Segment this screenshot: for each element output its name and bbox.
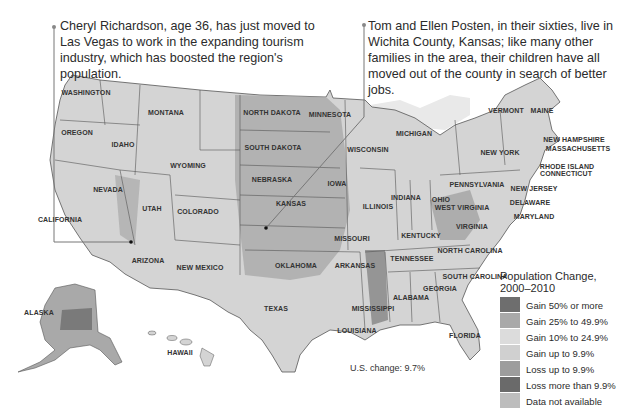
state-label-new-hampshire: NEW HAMPSHIRE xyxy=(543,136,605,144)
state-label-maine: MAINE xyxy=(530,107,553,115)
legend-item: Loss up to 9.9% xyxy=(500,361,616,377)
legend-subtitle: 2000–2010 xyxy=(500,282,616,294)
state-label-florida: FLORIDA xyxy=(449,332,481,340)
state-label-kentucky: KENTUCKY xyxy=(401,232,441,240)
state-label-maryland: MARYLAND xyxy=(514,213,555,221)
state-label-wisconsin: WISCONSIN xyxy=(347,146,388,154)
state-label-illinois: ILLINOIS xyxy=(363,203,393,211)
state-label-new-mexico: NEW MEXICO xyxy=(177,264,224,272)
state-label-georgia: GEORGIA xyxy=(423,285,457,293)
legend-label: Gain up to 9.9% xyxy=(526,348,594,359)
state-label-south-dakota: SOUTH DAKOTA xyxy=(244,144,301,152)
state-label-massachusetts: MASSACHUSETTS xyxy=(546,145,610,153)
legend-swatch xyxy=(500,297,520,313)
state-label-west-virginia: WEST VIRGINIA xyxy=(435,204,490,212)
legend: Population Change, 2000–2010 Gain 50% or… xyxy=(500,270,616,409)
legend-label: Gain 50% or more xyxy=(526,300,603,311)
legend-label: Data not available xyxy=(526,396,602,407)
state-label-north-carolina: NORTH CAROLINA xyxy=(437,247,502,255)
legend-item: Gain 25% to 49.9% xyxy=(500,313,616,329)
state-label-ohio: OHIO xyxy=(432,196,450,204)
legend-swatch xyxy=(500,361,520,377)
state-label-tennessee: TENNESSEE xyxy=(390,255,433,263)
state-label-oregon: OREGON xyxy=(61,129,93,137)
legend-item: Data not available xyxy=(500,393,616,409)
legend-label: Gain 10% to 24.9% xyxy=(526,332,608,343)
state-label-kansas: KANSAS xyxy=(276,200,306,208)
state-label-minnesota: MINNESOTA xyxy=(309,111,351,119)
state-label-utah: UTAH xyxy=(142,205,161,213)
state-label-mississippi: MISSISSIPPI xyxy=(352,305,395,313)
state-label-iowa: IOWA xyxy=(327,180,346,188)
state-label-new-jersey: NEW JERSEY xyxy=(511,185,558,193)
state-label-colorado: COLORADO xyxy=(177,208,219,216)
state-label-alaska: ALASKA xyxy=(24,309,54,317)
callout-las-vegas: Cheryl Richardson, age 36, has just move… xyxy=(60,18,330,82)
state-label-oklahoma: OKLAHOMA xyxy=(275,262,317,270)
state-label-north-dakota: NORTH DAKOTA xyxy=(243,109,300,117)
legend-item: Gain up to 9.9% xyxy=(500,345,616,361)
state-label-louisiana: LOUISIANA xyxy=(337,327,376,335)
legend-label: Loss more than 9.9% xyxy=(526,380,616,391)
legend-item: Gain 10% to 24.9% xyxy=(500,329,616,345)
state-label-new-york: NEW YORK xyxy=(480,149,519,157)
legend-swatch xyxy=(500,345,520,361)
state-label-alabama: ALABAMA xyxy=(393,294,429,302)
state-label-michigan: MICHIGAN xyxy=(396,130,432,138)
legend-swatch xyxy=(500,329,520,345)
state-label-indiana: INDIANA xyxy=(391,194,421,202)
state-label-texas: TEXAS xyxy=(264,305,288,313)
state-label-missouri: MISSOURI xyxy=(334,235,369,243)
state-label-delaware: DELAWARE xyxy=(510,199,550,207)
state-label-idaho: IDAHO xyxy=(111,141,134,149)
legend-label: Gain 25% to 49.9% xyxy=(526,316,608,327)
state-label-arkansas: ARKANSAS xyxy=(335,262,375,270)
state-label-nebraska: NEBRASKA xyxy=(252,176,292,184)
state-label-nevada: NEVADA xyxy=(93,186,123,194)
us-change-note: U.S. change: 9.7% xyxy=(350,363,425,373)
state-label-california: CALIFORNIA xyxy=(38,216,82,224)
state-label-virginia: VIRGINIA xyxy=(456,223,488,231)
legend-label: Loss up to 9.9% xyxy=(526,364,594,375)
legend-item: Loss more than 9.9% xyxy=(500,377,616,393)
state-label-wyoming: WYOMING xyxy=(170,162,206,170)
state-label-vermont: VERMONT xyxy=(488,107,524,115)
state-label-connecticut: CONNECTICUT xyxy=(540,170,592,178)
state-label-pennsylvania: PENNSYLVANIA xyxy=(449,181,504,189)
legend-item: Gain 50% or more xyxy=(500,297,616,313)
state-label-washington: WASHINGTON xyxy=(61,89,110,97)
state-label-south-carolina: SOUTH CAROLINA xyxy=(443,273,508,281)
state-label-hawaii: HAWAII xyxy=(167,349,193,357)
legend-swatch xyxy=(500,393,520,409)
state-label-montana: MONTANA xyxy=(148,109,184,117)
legend-swatch xyxy=(500,377,520,393)
legend-title: Population Change, xyxy=(500,270,616,282)
callout-wichita-county: Tom and Ellen Posten, in their sixties, … xyxy=(368,18,618,98)
state-label-arizona: ARIZONA xyxy=(132,257,165,265)
legend-swatch xyxy=(500,313,520,329)
